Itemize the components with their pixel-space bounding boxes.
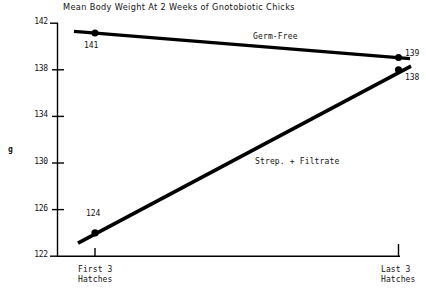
y-tick-label-126: 126 (22, 205, 48, 214)
data-label-germ-free-last: 139 (405, 50, 419, 59)
series-label-strep-filtrate: Strep. + Filtrate (255, 158, 339, 167)
data-label-strep-last: 138 (405, 74, 419, 83)
chart-title: Mean Body Weight At 2 Weeks of Gnotobiot… (63, 3, 295, 12)
x-tick-label-first-line2: Hatches (78, 276, 112, 285)
data-point-strep-last (395, 66, 402, 73)
y-tick-label-130: 130 (22, 158, 48, 167)
y-tick-label-142: 142 (22, 18, 48, 27)
x-tick-label-first-line1: First 3 (78, 266, 112, 275)
data-label-strep-first: 124 (86, 210, 100, 219)
series-line-strep-filtrate (78, 66, 411, 243)
data-point-strep-first (91, 229, 98, 236)
series-label-germ-free: Germ-Free (253, 33, 298, 42)
y-axis-title: g (8, 146, 13, 155)
x-axis-ticks (95, 244, 399, 257)
y-tick-label-122: 122 (22, 251, 48, 260)
chart-figure: Mean Body Weight At 2 Weeks of Gnotobiot… (0, 0, 426, 295)
y-tick-label-138: 138 (22, 65, 48, 74)
data-point-germ-free-first (92, 30, 99, 37)
data-label-germ-free-first: 141 (84, 42, 98, 51)
x-tick-label-last-line1: Last 3 (381, 266, 411, 275)
data-point-germ-free-last (395, 54, 402, 61)
axis-lines (57, 23, 400, 257)
chart-plot-area (0, 0, 426, 295)
x-tick-label-last-line2: Hatches (381, 276, 415, 285)
y-tick-label-134: 134 (22, 111, 48, 120)
series-line-germ-free (74, 30, 410, 62)
